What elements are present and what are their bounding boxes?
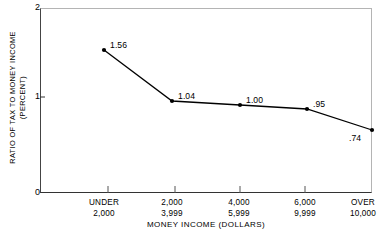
data-point-label-4: .95	[313, 100, 325, 109]
data-point-marker	[170, 99, 174, 103]
data-point-label-3: 1.00	[246, 96, 263, 105]
x-axis-ticks	[108, 186, 305, 193]
data-line	[104, 50, 372, 130]
x-category-label-over-10000: OVER 10,000	[339, 198, 387, 219]
x-category-label-2000-3999: 2,000 3,999	[142, 198, 202, 219]
data-point-marker	[370, 128, 374, 132]
x-axis-title: MONEY INCOME (DOLLARS)	[40, 220, 372, 229]
tax-ratio-line-chart: RATIO OF TAX TO MONEY INCOME (PERCENT) 2…	[0, 0, 389, 236]
data-point-marker	[305, 107, 309, 111]
y-tick-label-1: 1	[18, 92, 40, 101]
y-tick-label-2: 2	[18, 3, 40, 12]
y-axis-tick-labels: 2 1 0	[0, 0, 40, 236]
y-tick-label-0: 0	[18, 188, 40, 197]
x-category-label-6000-9999: 6,000 9,999	[275, 198, 335, 219]
data-point-label-1: 1.56	[110, 41, 127, 50]
data-point-markers	[102, 48, 374, 132]
data-point-marker	[102, 48, 106, 52]
x-category-label-under-2000: UNDER 2,000	[74, 198, 134, 219]
data-point-label-5: .74	[349, 134, 361, 143]
data-point-label-2: 1.04	[178, 92, 195, 101]
data-point-marker	[238, 103, 242, 107]
x-category-label-4000-5999: 4,000 5,999	[209, 198, 269, 219]
